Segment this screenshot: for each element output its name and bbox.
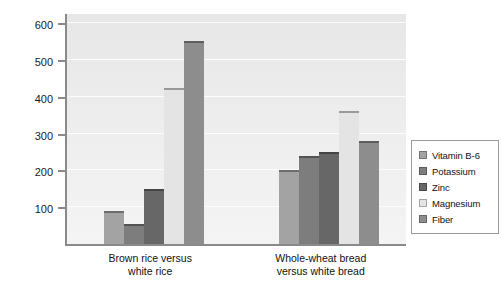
legend-item-label: Potassium — [432, 166, 475, 177]
bar — [184, 41, 204, 244]
y-axis-tick-label: 600 — [35, 19, 53, 31]
bars-layer — [67, 14, 406, 244]
legend-item-label: Zinc — [432, 182, 450, 193]
y-axis-tick — [58, 23, 65, 25]
legend-item: Zinc — [419, 180, 492, 194]
y-axis-tick-label: 400 — [35, 93, 53, 105]
y-axis-tick — [58, 60, 65, 62]
y-axis-tick-label: 100 — [35, 203, 53, 215]
legend-item: Potassium — [419, 164, 492, 178]
plot-area — [65, 14, 406, 246]
legend-swatch-icon — [419, 183, 427, 191]
y-axis-ticks: 100200300400500600 — [0, 14, 65, 246]
legend-swatch-icon — [419, 199, 427, 207]
y-axis-tick — [58, 97, 65, 99]
y-axis-tick — [58, 134, 65, 136]
bar — [104, 211, 124, 244]
bar — [359, 141, 379, 244]
x-axis-category-label: Whole-wheat bread versus white bread — [236, 252, 407, 277]
bar — [339, 111, 359, 244]
bar — [124, 224, 144, 244]
bar — [164, 88, 184, 245]
legend-swatch-icon — [419, 167, 427, 175]
bar — [319, 152, 339, 244]
legend: Vitamin B-6PotassiumZincMagnesiumFiber — [411, 140, 499, 234]
x-axis-category-label: Brown rice versus white rice — [65, 252, 236, 277]
legend-item-label: Fiber — [432, 214, 453, 225]
y-axis-tick-label: 200 — [35, 166, 53, 178]
legend-item: Vitamin B-6 — [419, 148, 492, 162]
y-axis-tick — [58, 170, 65, 172]
bar — [144, 189, 164, 244]
legend-item: Magnesium — [419, 196, 492, 210]
y-axis-tick-label: 300 — [35, 130, 53, 142]
bar — [279, 170, 299, 244]
legend-swatch-icon — [419, 151, 427, 159]
bar — [299, 156, 319, 244]
legend-item-label: Magnesium — [432, 198, 480, 209]
bar-chart-figure: Increase in nutrient content (%) 1002003… — [0, 0, 502, 282]
legend-item-label: Vitamin B-6 — [432, 150, 480, 161]
legend-swatch-icon — [419, 215, 427, 223]
y-axis-tick — [58, 207, 65, 209]
legend-item: Fiber — [419, 212, 492, 226]
y-axis-tick-label: 500 — [35, 56, 53, 68]
